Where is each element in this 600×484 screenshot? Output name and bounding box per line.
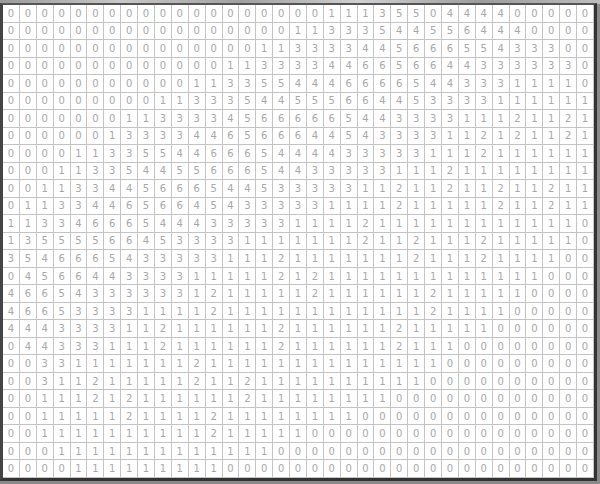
grid-cell: 0	[54, 23, 71, 41]
grid-cell: 6	[374, 75, 391, 93]
grid-cell: 1	[290, 408, 307, 426]
grid-cell: 4	[459, 58, 476, 76]
grid-cell: 1	[172, 338, 189, 356]
grid-cell: 1	[172, 425, 189, 443]
grid-cell: 0	[172, 40, 189, 58]
grid-cell: 1	[239, 355, 256, 373]
grid-cell: 1	[290, 320, 307, 338]
grid-cell: 1	[206, 338, 223, 356]
grid-cell: 3	[155, 110, 172, 128]
grid-cell: 0	[459, 338, 476, 356]
grid-cell: 3	[104, 285, 121, 303]
grid-cell: 1	[172, 460, 189, 478]
grid-cell: 0	[54, 58, 71, 76]
grid-cell: 1	[239, 338, 256, 356]
grid-cell: 1	[104, 373, 121, 391]
grid-cell: 1	[155, 425, 172, 443]
grid-cell: 4	[155, 163, 172, 181]
grid-cell: 6	[239, 163, 256, 181]
grid-cell: 0	[104, 5, 121, 23]
grid-cell: 1	[189, 75, 206, 93]
grid-cell: 1	[172, 373, 189, 391]
grid-cell: 5	[391, 40, 408, 58]
grid-cell: 3	[54, 320, 71, 338]
grid-cell: 6	[324, 110, 341, 128]
grid-cell: 4	[20, 338, 37, 356]
grid-cell: 3	[307, 180, 324, 198]
grid-cell: 1	[256, 390, 273, 408]
grid-cell: 1	[155, 303, 172, 321]
grid-cell: 3	[206, 233, 223, 251]
grid-cell: 1	[104, 355, 121, 373]
grid-cell: 4	[442, 58, 459, 76]
grid-cell: 0	[510, 338, 527, 356]
grid-cell: 0	[104, 75, 121, 93]
grid-cell: 0	[526, 303, 543, 321]
grid-cell: 5	[206, 180, 223, 198]
grid-cell: 0	[104, 23, 121, 41]
grid-cell: 0	[71, 23, 88, 41]
grid-cell: 3	[189, 110, 206, 128]
grid-cell: 1	[510, 163, 527, 181]
grid-cell: 1	[307, 390, 324, 408]
grid-cell: 4	[104, 268, 121, 286]
grid-cell: 1	[54, 163, 71, 181]
grid-cell: 3	[307, 58, 324, 76]
grid-cell: 0	[290, 443, 307, 461]
grid-cell: 6	[442, 40, 459, 58]
grid-cell: 6	[290, 110, 307, 128]
grid-cell: 1	[425, 180, 442, 198]
grid-cell: 1	[425, 198, 442, 216]
grid-cell: 1	[476, 198, 493, 216]
grid-cell: 1	[493, 110, 510, 128]
grid-cell: 4	[172, 215, 189, 233]
grid-cell: 1	[425, 233, 442, 251]
grid-cell: 0	[510, 390, 527, 408]
grid-cell: 0	[223, 5, 240, 23]
grid-cell: 0	[577, 23, 594, 41]
grid-cell: 0	[223, 23, 240, 41]
grid-cell: 2	[87, 390, 104, 408]
grid-cell: 1	[577, 145, 594, 163]
grid-cell: 3	[391, 145, 408, 163]
grid-cell: 3	[425, 110, 442, 128]
grid-cell: 3	[290, 180, 307, 198]
grid-cell: 1	[290, 215, 307, 233]
grid-cell: 1	[577, 128, 594, 146]
grid-cell: 1	[138, 110, 155, 128]
grid-cell: 5	[341, 110, 358, 128]
grid-cell: 1	[543, 93, 560, 111]
grid-cell: 4	[425, 75, 442, 93]
grid-cell: 4	[104, 198, 121, 216]
grid-cell: 1	[493, 163, 510, 181]
grid-cell: 6	[172, 198, 189, 216]
grid-cell: 0	[37, 460, 54, 478]
grid-cell: 0	[577, 408, 594, 426]
grid-cell: 6	[425, 40, 442, 58]
grid-cell: 1	[577, 180, 594, 198]
grid-cell: 6	[374, 58, 391, 76]
grid-cell: 5	[459, 40, 476, 58]
grid-cell: 1	[290, 250, 307, 268]
grid-cell: 2	[543, 198, 560, 216]
grid-cell: 6	[121, 233, 138, 251]
grid-cell: 3	[206, 110, 223, 128]
grid-cell: 6	[155, 198, 172, 216]
grid-cell: 3	[510, 58, 527, 76]
grid-cell: 1	[560, 145, 577, 163]
grid-cell: 6	[206, 163, 223, 181]
grid-cell: 3	[155, 250, 172, 268]
grid-cell: 3	[71, 180, 88, 198]
grid-cell: 1	[341, 390, 358, 408]
grid-cell: 1	[560, 233, 577, 251]
grid-cell: 3	[223, 233, 240, 251]
grid-cell: 1	[526, 180, 543, 198]
grid-cell: 1	[442, 233, 459, 251]
grid-cell: 1	[104, 338, 121, 356]
grid-cell: 0	[476, 355, 493, 373]
grid-cell: 1	[577, 163, 594, 181]
grid-cell: 1	[290, 373, 307, 391]
grid-cell: 1	[526, 110, 543, 128]
grid-cell: 2	[408, 233, 425, 251]
grid-cell: 0	[442, 390, 459, 408]
